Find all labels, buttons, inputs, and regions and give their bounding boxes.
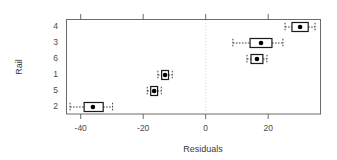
box-item-rail-6: [247, 55, 267, 64]
y-tick-label-4: 4: [53, 21, 58, 31]
median-dot-rail-6: [255, 57, 260, 62]
residuals-by-rail-boxplot: -40 -20 0 20 4 3 6 1 5 2 Residuals Rail: [0, 0, 337, 160]
median-dot-rail-1: [163, 73, 168, 78]
y-tick-label-1: 1: [53, 69, 58, 79]
y-tick-label-5: 5: [53, 85, 58, 95]
box-item-rail-1: [158, 71, 172, 80]
box-item-rail-3: [233, 39, 283, 48]
box-item-rail-2: [70, 103, 113, 112]
y-axis-title: Rail: [14, 59, 24, 75]
x-axis-ticks: [81, 14, 269, 119]
x-tick-label-3: 20: [263, 123, 273, 133]
x-axis-title: Residuals: [183, 144, 223, 154]
y-tick-label-6: 6: [53, 53, 58, 63]
median-dot-rail-4: [298, 25, 303, 30]
box-item-rail-4: [285, 23, 315, 32]
y-tick-label-3: 3: [53, 37, 58, 47]
median-dot-rail-2: [91, 105, 96, 110]
box-item-rail-5: [147, 87, 161, 96]
median-dot-rail-5: [152, 89, 157, 94]
plot-frame: [67, 20, 321, 115]
y-tick-label-2: 2: [53, 101, 58, 111]
median-dot-rail-3: [259, 41, 264, 46]
x-tick-label-1: -20: [137, 123, 150, 133]
x-tick-label-2: 0: [203, 123, 208, 133]
box-glyph-group: [70, 23, 315, 112]
boxplot-figure: -40 -20 0 20 4 3 6 1 5 2 Residuals Rail: [0, 0, 337, 160]
x-tick-label-0: -40: [75, 123, 88, 133]
